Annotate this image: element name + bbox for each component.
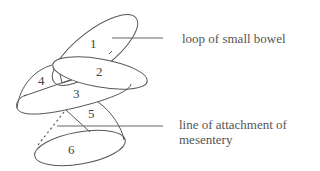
loop-segment-6 [32, 124, 128, 171]
mesentery-tick-1 [109, 51, 112, 54]
region-number-2: 2 [96, 64, 103, 79]
region-number-3: 3 [73, 86, 80, 101]
label-line-of-attachment: line of attachment of mesentery [179, 117, 287, 147]
region-number-1: 1 [90, 36, 97, 51]
region-number-6: 6 [68, 142, 75, 157]
label-attachment-line-2: mesentery [179, 132, 287, 147]
region-number-4: 4 [38, 73, 45, 88]
label-attachment-line-1: line of attachment of [179, 117, 287, 132]
region-number-5: 5 [88, 106, 95, 121]
label-loop-of-small-bowel: loop of small bowel [182, 31, 286, 46]
